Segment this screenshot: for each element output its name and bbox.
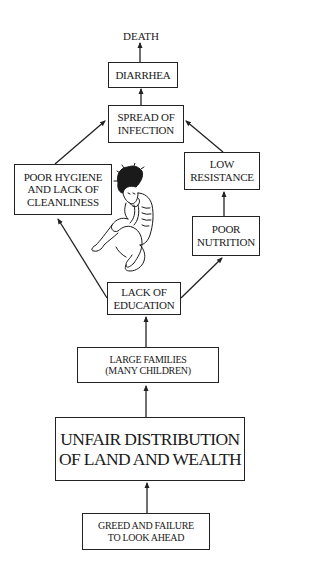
node-families-label: LARGE FAMILIES (MANY CHILDREN) [105, 354, 190, 377]
arrow-hygiene-to-spread [55, 121, 105, 164]
node-education-label: LACK OF EDUCATION [113, 286, 174, 311]
node-resistance-label: LOW RESISTANCE [190, 158, 254, 183]
arrow-education-to-nutrition [181, 258, 222, 298]
arrow-resistance-to-spread [186, 121, 223, 152]
node-nutrition-label: POOR NUTRITION [197, 223, 255, 248]
node-greed: GREED AND FAILURE TO LOOK AHEAD [82, 513, 210, 550]
node-diarrhea-label: DIARRHEA [115, 69, 170, 82]
node-lack-of-education: LACK OF EDUCATION [107, 282, 181, 315]
node-large-families: LARGE FAMILIES (MANY CHILDREN) [77, 347, 219, 383]
node-spread-of-infection: SPREAD OF INFECTION [108, 105, 184, 143]
node-greed-label: GREED AND FAILURE TO LOOK AHEAD [98, 520, 194, 543]
sick-child-illustration [90, 163, 180, 275]
node-death-label: DEATH [123, 30, 159, 42]
node-unfair-distribution: UNFAIR DISTRIBUTION OF LAND AND WEALTH [55, 417, 245, 481]
node-low-resistance: LOW RESISTANCE [184, 152, 260, 190]
node-unfair-label: UNFAIR DISTRIBUTION OF LAND AND WEALTH [59, 429, 241, 469]
node-diarrhea: DIARRHEA [108, 62, 178, 88]
node-death: DEATH [115, 30, 167, 42]
node-poor-nutrition: POOR NUTRITION [192, 216, 260, 256]
node-spread-label: SPREAD OF INFECTION [117, 111, 174, 136]
